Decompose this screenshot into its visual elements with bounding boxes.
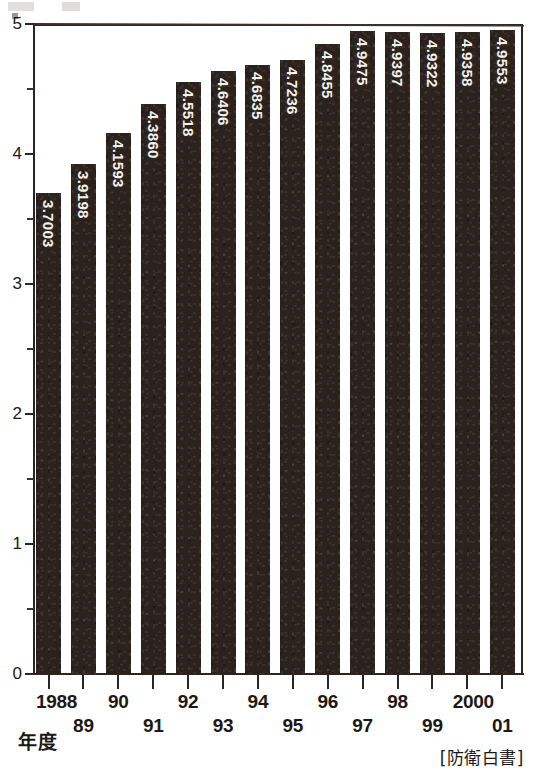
bar: 4.9475 [350, 31, 375, 674]
x-axis-tick-label: 1988 [26, 692, 88, 711]
x-axis-tick [48, 675, 50, 689]
y-axis-major-tick [25, 283, 34, 285]
x-axis-tick [466, 675, 468, 689]
x-axis-tick [431, 675, 433, 689]
y-axis-minor-tick [27, 478, 34, 480]
bar-value-label: 4.6835 [250, 72, 265, 120]
bar-value-label: 4.9358 [460, 39, 475, 87]
bar-value-rotator: 4.6406 [211, 71, 236, 674]
x-axis-tick-label: 96 [313, 692, 343, 711]
x-axis-tick-label: 95 [278, 716, 308, 735]
x-axis-tick-label: 99 [417, 716, 447, 735]
x-axis-tick [397, 675, 399, 689]
bar-value-rotator: 4.9358 [455, 32, 480, 674]
y-axis-tick-label-text: 0 [0, 665, 22, 682]
x-axis-tick-label: 92 [173, 692, 203, 711]
y-axis-tick-label-text: 2 [0, 405, 22, 422]
bar-value-label: 4.7236 [285, 67, 300, 115]
bar: 4.9397 [385, 32, 410, 674]
bar-value-rotator: 4.9322 [420, 33, 445, 674]
x-axis-tick [292, 675, 294, 689]
source-note: [防衛白書] [440, 748, 524, 768]
bar-value-rotator: 4.3860 [141, 104, 166, 674]
y-axis-tick-label: 4 [0, 145, 22, 162]
x-axis-tick [117, 675, 119, 689]
bar-value-label: 4.3860 [146, 111, 161, 159]
x-axis-tick-label: 2000 [442, 692, 504, 711]
bar-value-rotator: 4.9397 [385, 32, 410, 674]
bar-value-rotator: 3.7003 [36, 193, 61, 674]
y-axis-minor-tick [27, 88, 34, 90]
bar-value-label: 3.9198 [76, 171, 91, 219]
y-axis-tick-label: 0 [0, 665, 22, 682]
y-axis-tick-label: 5 [0, 15, 22, 32]
bar: 4.9553 [490, 30, 515, 674]
bar-value-rotator: 4.9475 [350, 31, 375, 674]
bar: 4.7236 [280, 60, 305, 674]
y-axis-minor-tick [27, 348, 34, 350]
y-axis-tick-label-text: 5 [0, 15, 22, 32]
x-axis-tick [327, 675, 329, 689]
y-axis-tick-label-text: 4 [0, 145, 22, 162]
x-axis-tick [152, 675, 154, 689]
bar-value-label: 4.9322 [425, 40, 440, 88]
bar: 4.5518 [176, 82, 201, 674]
plot-baseline [25, 673, 524, 675]
x-axis-tick-label: 94 [243, 692, 273, 711]
x-axis-tick [222, 675, 224, 689]
x-axis-tick-label: 01 [487, 716, 517, 735]
bar-value-label: 4.9475 [355, 38, 370, 86]
y-axis-major-tick [25, 543, 34, 545]
x-axis-tick [501, 675, 503, 689]
bar: 4.3860 [141, 104, 166, 674]
bar-value-label: 4.8455 [320, 51, 335, 99]
y-axis-minor-tick [27, 218, 34, 220]
y-axis-tick-label-text: 1 [0, 535, 22, 552]
y-axis-major-tick [25, 153, 34, 155]
x-axis-tick-label: 93 [208, 716, 238, 735]
y-axis-tick-label-text: 3 [0, 275, 22, 292]
bar-value-rotator: 3.9198 [71, 164, 96, 674]
x-axis-tick-label: 90 [103, 692, 133, 711]
bar-value-rotator: 4.1593 [106, 133, 131, 674]
bar-value-label: 4.1593 [111, 140, 126, 188]
bar: 3.7003 [36, 193, 61, 674]
bar-value-label: 4.6406 [216, 78, 231, 126]
bar-value-label: 4.9397 [390, 39, 405, 87]
y-axis-major-tick [25, 23, 34, 25]
bar: 4.8455 [315, 44, 340, 674]
y-axis-tick-label: 3 [0, 275, 22, 292]
bar-value-rotator: 4.8455 [315, 44, 340, 674]
y-axis-major-tick [25, 673, 34, 675]
bar-value-label: 4.9553 [495, 37, 510, 85]
bar-value-label: 3.7003 [41, 200, 56, 248]
bar-chart: 012345 3.70033.91984.15934.38604.55184.6… [0, 0, 534, 775]
x-axis-tick [257, 675, 259, 689]
y-axis-tick-label: 1 [0, 535, 22, 552]
bar: 3.9198 [71, 164, 96, 674]
bar: 4.6835 [245, 65, 270, 674]
x-axis-tick-label: 89 [68, 716, 98, 735]
y-axis-tick-label: 2 [0, 405, 22, 422]
bar: 4.9358 [455, 32, 480, 674]
bar-value-rotator: 4.7236 [280, 60, 305, 674]
bar-value-rotator: 4.9553 [490, 30, 515, 674]
x-axis-tick-label: 97 [348, 716, 378, 735]
y-axis-minor-tick [27, 608, 34, 610]
x-axis-tick [82, 675, 84, 689]
x-axis-tick-label: 98 [383, 692, 413, 711]
x-axis-tick-label: 91 [138, 716, 168, 735]
x-axis-tick [187, 675, 189, 689]
x-axis-tick [362, 675, 364, 689]
y-axis-major-tick [25, 413, 34, 415]
bar-value-rotator: 4.6835 [245, 65, 270, 674]
bar: 4.9322 [420, 33, 445, 674]
x-axis-caption: 年度 [18, 731, 58, 753]
bar-value-rotator: 4.5518 [176, 82, 201, 674]
bar-value-label: 4.5518 [181, 89, 196, 137]
bar: 4.1593 [106, 133, 131, 674]
bar: 4.6406 [211, 71, 236, 674]
